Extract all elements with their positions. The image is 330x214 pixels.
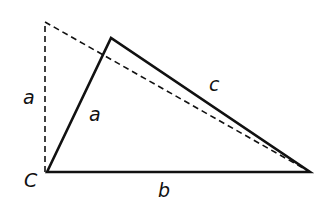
label-side-a: a (89, 103, 101, 125)
label-side-a-dashed: a (23, 86, 35, 108)
label-vertex-c: C (24, 169, 38, 191)
solid-triangle (47, 38, 310, 172)
dashed-hypotenuse (45, 22, 310, 172)
triangle-diagram: C a a c b (0, 0, 330, 214)
label-side-b: b (158, 179, 170, 201)
label-side-c: c (209, 73, 220, 95)
